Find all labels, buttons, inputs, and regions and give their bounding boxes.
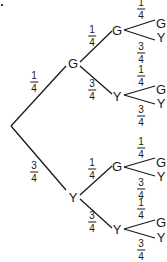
node-l2-gg: G [112,24,122,37]
prob-l3-4: 3 4 [137,105,145,128]
prob-l3-3: 1 4 [137,65,145,88]
node-l3-8: Y [157,231,166,244]
node-l2-gy: Y [113,90,122,103]
prob-l1-y: 3 4 [30,161,38,184]
node-l3-7: G [156,216,166,229]
prob-l3-2: 3 4 [137,42,145,65]
prob-l3-1: 1 4 [137,0,145,21]
prob-l2-gy: 3 4 [88,79,96,102]
node-l3-6: Y [157,170,166,183]
prob-l2-yg: 1 4 [88,158,96,181]
prob-l2-gg: 1 4 [88,25,96,48]
prob-l2-yy: 3 4 [88,211,96,234]
node-l1-y: Y [69,191,78,204]
node-l3-2: Y [157,31,166,44]
node-l3-5: G [156,156,166,169]
node-l1-g: G [68,57,78,70]
node-l3-1: G [156,17,166,30]
node-l2-yy: Y [113,223,122,236]
node-l2-yg: G [112,160,122,173]
prob-l3-7: 1 4 [137,198,145,221]
node-l3-3: G [156,83,166,96]
prob-l3-5: 1 4 [137,137,145,160]
prob-l1-g: 1 4 [30,71,38,94]
prob-l3-8: 3 4 [137,239,145,262]
node-l3-4: Y [157,97,166,110]
